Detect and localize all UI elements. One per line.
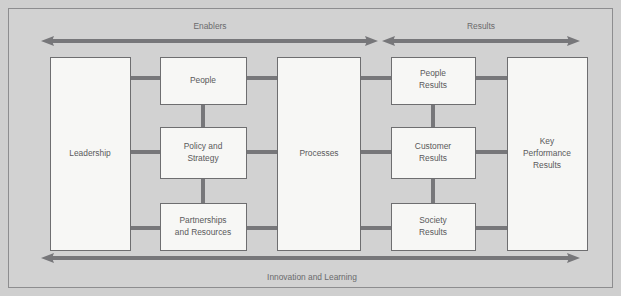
box-processes-label: Processes: [299, 148, 338, 158]
box-society-results[interactable]: Society Results: [392, 204, 476, 251]
box-customer-results-label-line1: Customer: [415, 141, 452, 151]
box-people-results-label-line2: Results: [419, 80, 447, 90]
box-key-performance-results-label-line3: Results: [533, 160, 561, 170]
box-partnerships-and-resources-label-line2: and Resources: [175, 227, 231, 237]
results-band-label: Results: [467, 21, 495, 31]
efqm-excellence-model-figure: Leadership People Policy and Strategy Pa…: [0, 0, 621, 296]
box-society-results-label-line1: Society: [419, 215, 447, 225]
box-partnerships-and-resources[interactable]: Partnerships and Resources: [161, 204, 247, 251]
box-key-performance-results-label-line1: Key: [540, 136, 555, 146]
box-policy-and-strategy[interactable]: Policy and Strategy: [161, 128, 247, 179]
box-policy-and-strategy-label-line2: Strategy: [187, 153, 219, 163]
box-people-label: People: [190, 75, 216, 85]
box-partnerships-and-resources-label-line1: Partnerships: [179, 215, 226, 225]
box-people[interactable]: People: [161, 58, 247, 105]
box-leadership-label: Leadership: [69, 148, 111, 158]
box-society-results-label-line2: Results: [419, 227, 447, 237]
box-policy-and-strategy-label-line1: Policy and: [184, 141, 223, 151]
box-key-performance-results-label-line2: Performance: [523, 148, 571, 158]
box-people-results-label-line1: People: [420, 68, 446, 78]
innovation-and-learning-band-label: Innovation and Learning: [267, 272, 357, 282]
box-customer-results-label-line2: Results: [419, 153, 447, 163]
box-key-performance-results[interactable]: Key Performance Results: [508, 58, 588, 251]
box-processes[interactable]: Processes: [278, 58, 361, 251]
diagram-canvas: Leadership People Policy and Strategy Pa…: [0, 0, 621, 296]
box-leadership[interactable]: Leadership: [51, 58, 131, 251]
box-people-results[interactable]: People Results: [392, 58, 476, 105]
box-customer-results[interactable]: Customer Results: [392, 128, 476, 179]
enablers-band-label: Enablers: [193, 21, 226, 31]
